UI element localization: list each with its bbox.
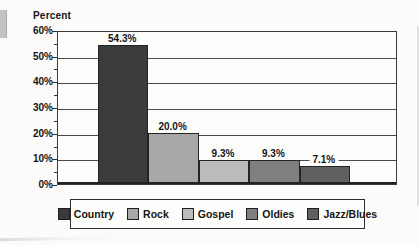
y-tick-minor bbox=[54, 95, 57, 96]
bar-oldies bbox=[249, 160, 299, 184]
bar-value-label: 9.3% bbox=[259, 148, 288, 159]
y-tick-label: 50% bbox=[21, 52, 53, 62]
legend-item-country: Country bbox=[58, 208, 114, 220]
legend-label: Jazz/Blues bbox=[323, 208, 377, 220]
bar-value-label: 54.3% bbox=[105, 33, 139, 44]
y-tick-label: 40% bbox=[21, 77, 53, 87]
scan-smudge-artifact bbox=[0, 236, 130, 241]
plot-area bbox=[57, 31, 397, 185]
y-tick-label: 30% bbox=[21, 103, 53, 113]
bar-value-label: 20.0% bbox=[155, 121, 189, 132]
legend-label: Oldies bbox=[262, 208, 294, 220]
bar-value-label: 9.3% bbox=[209, 148, 238, 159]
y-tick-major bbox=[52, 108, 57, 109]
legend-label: Rock bbox=[143, 208, 169, 220]
legend-label: Country bbox=[74, 208, 114, 220]
legend-item-rock: Rock bbox=[127, 208, 169, 220]
y-tick-minor bbox=[54, 147, 57, 148]
y-tick-minor bbox=[54, 44, 57, 45]
y-tick-minor bbox=[54, 69, 57, 70]
y-tick-label: 0% bbox=[21, 180, 53, 190]
y-tick-major bbox=[52, 185, 57, 186]
legend-swatch bbox=[246, 208, 258, 220]
y-tick-major bbox=[52, 159, 57, 160]
legend-item-jazz-blues: Jazz/Blues bbox=[307, 208, 377, 220]
legend-item-oldies: Oldies bbox=[246, 208, 294, 220]
y-tick-major bbox=[52, 57, 57, 58]
y-axis-title: Percent bbox=[33, 10, 71, 21]
bar-rock bbox=[148, 133, 198, 184]
page-edge-tab-artifact bbox=[0, 10, 7, 38]
bar-country bbox=[98, 45, 148, 184]
y-tick-label: 20% bbox=[21, 129, 53, 139]
bar-value-label: 7.1% bbox=[309, 154, 338, 165]
legend-swatch bbox=[127, 208, 139, 220]
legend-box: CountryRockGospelOldiesJazz/Blues bbox=[70, 199, 365, 229]
y-tick-label: 60% bbox=[21, 26, 53, 36]
legend-swatch bbox=[307, 208, 319, 220]
y-tick-major bbox=[52, 82, 57, 83]
y-tick-major bbox=[52, 134, 57, 135]
y-tick-minor bbox=[54, 121, 57, 122]
legend-label: Gospel bbox=[198, 208, 234, 220]
legend-swatch bbox=[182, 208, 194, 220]
legend-item-gospel: Gospel bbox=[182, 208, 234, 220]
scanned-bar-chart-page: Percent 0%10%20%30%40%50%60% 54.3%20.0%9… bbox=[0, 0, 419, 245]
legend-swatch bbox=[58, 208, 70, 220]
y-tick-major bbox=[52, 31, 57, 32]
x-axis-line bbox=[58, 182, 396, 184]
y-tick-label: 10% bbox=[21, 154, 53, 164]
bar-gospel bbox=[199, 160, 249, 184]
y-tick-minor bbox=[54, 172, 57, 173]
